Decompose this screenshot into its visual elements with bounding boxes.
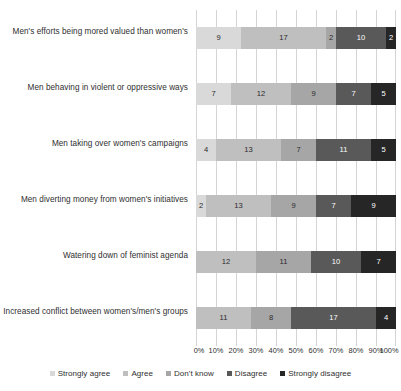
bar-segment-value: 4 <box>384 314 388 322</box>
bar-segment: 5 <box>371 139 396 161</box>
legend-item[interactable]: Don't know <box>166 369 214 378</box>
bar-segment: 17 <box>241 27 326 49</box>
legend-swatch-icon <box>50 371 55 376</box>
bar-row: 4137115 <box>196 139 396 161</box>
bar-segment-value: 13 <box>244 146 252 154</box>
gridline <box>216 10 217 346</box>
bar-segment: 2 <box>386 27 396 49</box>
x-tick-label: 20% <box>229 346 244 355</box>
bar-segment: 7 <box>361 251 396 273</box>
bar-segment-value: 17 <box>279 34 287 42</box>
legend-label: Strongly agree <box>58 369 111 378</box>
gridline <box>296 10 297 346</box>
bar-segment-value: 9 <box>291 202 295 210</box>
legend-label: Strongly disagree <box>288 369 351 378</box>
gridline <box>256 10 257 346</box>
x-tick-label: 60% <box>309 346 324 355</box>
bar-segment: 13 <box>206 195 271 217</box>
bar-segment-value: 9 <box>216 34 220 42</box>
x-tick-label: 40% <box>269 346 284 355</box>
category-label: Watering down of feminist agenda <box>0 251 188 262</box>
x-axis-ticks: 0%10%20%30%40%50%60%70%80%90%100% <box>196 346 396 358</box>
bar-segment: 13 <box>216 139 281 161</box>
bar-segment-value: 7 <box>351 90 355 98</box>
bar-segment: 17 <box>291 307 376 329</box>
bar-segment: 10 <box>336 27 386 49</box>
bar-segment: 7 <box>281 139 316 161</box>
bar-segment: 12 <box>196 251 256 273</box>
legend-swatch-icon <box>123 371 128 376</box>
gridline <box>356 10 357 346</box>
bar-segment-value: 9 <box>371 202 375 210</box>
legend-swatch-icon <box>166 371 171 376</box>
bar-segment: 8 <box>251 307 291 329</box>
gridline <box>276 10 277 346</box>
bar-segment-value: 7 <box>296 146 300 154</box>
gridlines <box>196 10 396 346</box>
page-artifact <box>379 376 387 385</box>
bar-segment: 7 <box>336 83 371 105</box>
legend-item[interactable]: Disagree <box>227 369 267 378</box>
x-tick-label: 30% <box>249 346 264 355</box>
bar-segment-value: 5 <box>381 90 385 98</box>
chart-page: Men's efforts being mored valued than wo… <box>0 0 401 391</box>
bar-segment: 11 <box>316 139 371 161</box>
bar-segment-value: 7 <box>331 202 335 210</box>
bar-segment: 11 <box>256 251 311 273</box>
legend-swatch-icon <box>227 371 232 376</box>
legend-label: Don't know <box>174 369 214 378</box>
bar-row: 118174 <box>196 307 396 329</box>
gridline <box>376 10 377 346</box>
chart-legend: Strongly agreeAgreeDon't knowDisagreeStr… <box>0 366 401 380</box>
plot-area: 917210271297541371152139791211107118174 <box>196 10 396 346</box>
bar-segment: 9 <box>196 27 241 49</box>
gridline <box>395 10 396 346</box>
legend-item[interactable]: Agree <box>123 369 153 378</box>
legend-item[interactable]: Strongly agree <box>50 369 111 378</box>
x-tick-label: 80% <box>349 346 364 355</box>
bar-segment-value: 7 <box>376 258 380 266</box>
bar-segment-value: 11 <box>340 146 348 154</box>
bar-segment-value: 11 <box>220 314 228 322</box>
bar-segment: 4 <box>376 307 396 329</box>
bar-segment-value: 12 <box>257 90 265 98</box>
bar-segment: 11 <box>196 307 251 329</box>
bar-segment: 2 <box>326 27 336 49</box>
bar-segment-value: 13 <box>234 202 242 210</box>
bar-segment: 9 <box>291 83 336 105</box>
x-tick-label: 50% <box>289 346 304 355</box>
category-label: Men's efforts being mored valued than wo… <box>0 27 188 38</box>
bar-segment-value: 10 <box>332 258 340 266</box>
bar-segment-value: 5 <box>381 146 385 154</box>
bar-segment: 9 <box>271 195 316 217</box>
bar-row: 213979 <box>196 195 396 217</box>
legend-swatch-icon <box>280 371 285 376</box>
bar-segment: 10 <box>311 251 361 273</box>
legend-label: Agree <box>131 369 153 378</box>
category-axis-labels: Men's efforts being mored valued than wo… <box>0 10 192 346</box>
bar-segment: 4 <box>196 139 216 161</box>
bar-segment-value: 12 <box>222 258 230 266</box>
gridline <box>196 10 197 346</box>
bar-row: 9172102 <box>196 27 396 49</box>
bar-segment-value: 9 <box>311 90 315 98</box>
bar-segment: 12 <box>231 83 291 105</box>
bar-segment-value: 2 <box>199 202 203 210</box>
bar-segment-value: 11 <box>280 258 288 266</box>
bar-segment: 2 <box>196 195 206 217</box>
bar-segment: 9 <box>351 195 396 217</box>
category-label: Increased conflict between women's/men's… <box>0 307 188 318</box>
bar-segment-value: 2 <box>329 34 333 42</box>
x-tick-label: 100% <box>380 346 399 355</box>
gridline <box>336 10 337 346</box>
category-label: Men taking over women's campaigns <box>0 139 188 150</box>
gridline <box>316 10 317 346</box>
category-label: Men diverting money from women's initiat… <box>0 195 188 206</box>
bar-segment-value: 8 <box>269 314 273 322</box>
bar-segment-value: 7 <box>211 90 215 98</box>
bar-segment-value: 4 <box>204 146 208 154</box>
stacked-bar-chart: Men's efforts being mored valued than wo… <box>0 10 401 350</box>
category-label: Men behaving in violent or oppressive wa… <box>0 83 188 94</box>
legend-item[interactable]: Strongly disagree <box>280 369 351 378</box>
bar-segment-value: 17 <box>329 314 337 322</box>
